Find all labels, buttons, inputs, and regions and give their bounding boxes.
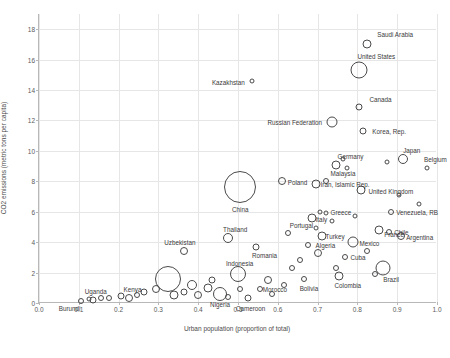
x-tickmark: [158, 302, 159, 305]
x-gridline: [198, 14, 199, 302]
data-point-bubble[interactable]: [285, 230, 291, 236]
data-point-label: Uzbekistan: [164, 239, 195, 246]
data-point-bubble[interactable]: [181, 289, 188, 296]
data-point-bubble[interactable]: [398, 154, 408, 164]
x-gridline: [278, 14, 279, 302]
plot-area: 0.00.10.20.30.40.50.60.70.80.91.00246810…: [38, 14, 436, 303]
data-point-label: Greece: [331, 209, 352, 216]
data-point-bubble[interactable]: [356, 103, 363, 110]
data-point-label: Argentina: [406, 234, 433, 241]
data-point-bubble[interactable]: [244, 294, 251, 301]
data-point-bubble[interactable]: [313, 226, 318, 231]
data-point-bubble[interactable]: [223, 233, 233, 243]
data-point-label: Romania: [252, 251, 277, 258]
data-point-bubble[interactable]: [225, 294, 231, 300]
data-point-bubble[interactable]: [170, 291, 179, 300]
data-point-label: Poland: [288, 179, 308, 186]
y-tick-label: 8: [31, 178, 35, 185]
data-point-bubble[interactable]: [289, 265, 295, 271]
data-point-bubble[interactable]: [301, 276, 307, 282]
data-point-label: Iran, Islamic Rep.: [321, 181, 370, 188]
data-point-bubble[interactable]: [78, 298, 84, 304]
y-tick-label: 14: [28, 87, 35, 94]
data-point-bubble[interactable]: [417, 202, 422, 207]
data-point-bubble[interactable]: [333, 265, 339, 271]
data-point-bubble[interactable]: [86, 297, 91, 302]
data-point-bubble[interactable]: [335, 271, 344, 280]
data-point-label: Kazakhstan: [212, 78, 245, 85]
x-tickmark: [357, 302, 358, 305]
data-point-label: Colombia: [334, 281, 361, 288]
data-point-bubble[interactable]: [314, 249, 322, 257]
data-point-bubble[interactable]: [329, 218, 334, 223]
data-point-bubble[interactable]: [326, 116, 337, 127]
y-tickmark: [36, 273, 39, 274]
data-point-label: United States: [357, 53, 395, 60]
x-tick-label: 0.2: [114, 306, 123, 313]
data-point-bubble[interactable]: [317, 209, 322, 214]
data-point-label: Venezuela, RB: [396, 208, 438, 215]
data-point-bubble[interactable]: [187, 280, 197, 290]
data-point-label: Brazil: [383, 276, 399, 283]
data-point-label: Saudi Arabia: [377, 31, 413, 38]
y-tickmark: [36, 181, 39, 182]
data-point-bubble[interactable]: [278, 177, 286, 185]
data-point-bubble[interactable]: [98, 295, 104, 301]
data-point-label: Malaysia: [331, 170, 356, 177]
data-point-bubble[interactable]: [180, 247, 188, 255]
data-point-label: Bolivia: [300, 284, 319, 291]
data-point-label: Canada: [369, 95, 391, 102]
data-point-bubble[interactable]: [106, 295, 112, 301]
data-point-bubble[interactable]: [117, 293, 124, 300]
data-point-label: Russian Federation: [268, 118, 323, 125]
data-point-label: Germany: [338, 152, 364, 159]
data-point-bubble[interactable]: [141, 289, 148, 296]
data-point-bubble[interactable]: [194, 291, 202, 299]
data-point-bubble[interactable]: [125, 294, 133, 302]
data-point-bubble[interactable]: [375, 225, 384, 234]
data-point-bubble[interactable]: [348, 237, 359, 248]
data-point-bubble[interactable]: [134, 292, 140, 298]
y-gridline: [39, 120, 436, 121]
data-point-bubble[interactable]: [360, 128, 367, 135]
data-point-bubble[interactable]: [342, 254, 348, 260]
data-point-bubble[interactable]: [353, 214, 358, 219]
data-point-bubble[interactable]: [385, 159, 390, 164]
y-tickmark: [36, 212, 39, 213]
data-point-bubble[interactable]: [204, 283, 213, 292]
x-gridline: [79, 14, 80, 302]
data-point-bubble[interactable]: [249, 78, 254, 83]
data-point-bubble[interactable]: [305, 242, 311, 248]
data-point-bubble[interactable]: [311, 180, 320, 189]
y-tick-label: 10: [28, 147, 35, 154]
data-point-label: Turkey: [326, 233, 345, 240]
data-point-label: Algeria: [316, 241, 336, 248]
x-gridline: [318, 14, 319, 302]
x-tick-label: 0.9: [393, 306, 402, 313]
data-point-label: United Kingdom: [368, 188, 413, 195]
data-point-bubble[interactable]: [252, 243, 259, 250]
data-point-bubble[interactable]: [351, 62, 368, 79]
data-point-label: Morocco: [263, 286, 287, 293]
data-point-label: China: [232, 206, 248, 213]
data-point-bubble[interactable]: [297, 257, 303, 263]
data-point-bubble[interactable]: [237, 286, 243, 292]
x-tickmark: [437, 302, 438, 305]
data-point-label: France: [384, 230, 404, 237]
data-point-bubble[interactable]: [224, 171, 256, 203]
data-point-label: Nigeria: [210, 300, 230, 307]
data-point-bubble[interactable]: [372, 271, 378, 277]
x-tick-label: 0.4: [194, 306, 203, 313]
data-point-bubble[interactable]: [152, 285, 160, 293]
data-point-bubble[interactable]: [209, 277, 216, 284]
data-point-bubble[interactable]: [331, 160, 340, 169]
data-point-bubble[interactable]: [425, 165, 430, 170]
x-tick-label: 0.0: [34, 306, 43, 313]
x-gridline: [39, 14, 40, 302]
data-point-bubble[interactable]: [388, 209, 394, 215]
x-gridline: [158, 14, 159, 302]
y-tickmark: [36, 60, 39, 61]
data-point-bubble[interactable]: [264, 276, 272, 284]
data-point-bubble[interactable]: [363, 40, 372, 49]
data-point-bubble[interactable]: [230, 266, 246, 282]
